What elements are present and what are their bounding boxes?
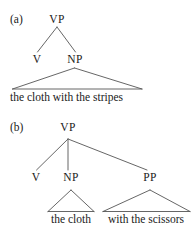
- edge-a-vp-v: [38, 27, 58, 52]
- triangle-b-np-right: [71, 190, 94, 212]
- edge-a-vp-np: [57, 27, 76, 52]
- triangle-a-right: [75, 68, 143, 89]
- node-a-np: NP: [67, 54, 82, 66]
- node-a-v: V: [33, 54, 42, 66]
- edge-b-vp-v: [37, 139, 69, 170]
- node-b-v: V: [32, 172, 41, 184]
- panel-label-a: (a): [10, 14, 23, 26]
- node-b-pp: PP: [143, 172, 156, 184]
- triangle-a-left: [13, 68, 75, 89]
- terminal-b-pp-phrase: with the scissors: [108, 214, 184, 226]
- terminal-a-phrase: the cloth with the stripes: [10, 92, 123, 104]
- triangle-b-np-left: [48, 190, 71, 212]
- node-b-np: NP: [63, 172, 78, 184]
- triangle-b-pp-right: [150, 190, 190, 212]
- triangle-b-pp-left: [103, 190, 150, 212]
- edge-b-vp-pp: [68, 139, 147, 170]
- syntax-tree-figure: (a) VP V NP the cloth with the stripes (…: [0, 0, 192, 232]
- panel-label-b: (b): [10, 122, 23, 134]
- node-b-vp: VP: [60, 122, 75, 134]
- terminal-b-np-phrase: the cloth: [51, 214, 91, 226]
- node-a-vp: VP: [49, 14, 64, 26]
- tree-lines-layer: [0, 0, 192, 232]
